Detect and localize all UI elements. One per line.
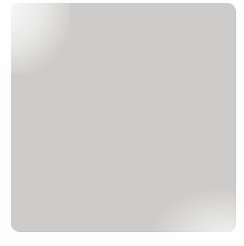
go-diagram xyxy=(0,0,244,246)
board-grid xyxy=(0,0,244,246)
